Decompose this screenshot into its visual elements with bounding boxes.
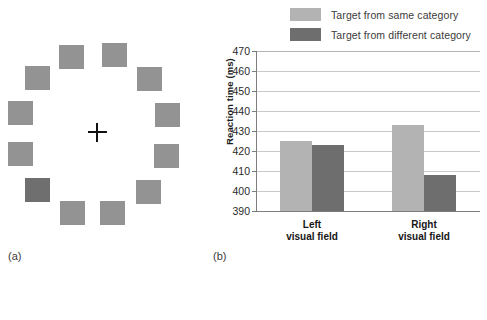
- stimulus-square: [137, 67, 162, 91]
- stimulus-square: [154, 144, 179, 168]
- legend-swatch-same-category: [290, 8, 321, 21]
- gridline: [257, 91, 480, 92]
- stimulus-square: [102, 43, 127, 67]
- y-tick-label: 460: [232, 65, 250, 77]
- y-tick-mark: [252, 191, 256, 192]
- y-tick-label: 410: [232, 165, 250, 177]
- y-axis-title: Reaction time (ms): [224, 47, 235, 157]
- bar-different-category: [312, 145, 344, 211]
- y-tick-mark: [252, 171, 256, 172]
- stimulus-square: [136, 180, 161, 204]
- stimulus-square: [60, 201, 85, 225]
- y-tick-label: 440: [232, 105, 250, 117]
- y-tick-mark: [252, 71, 256, 72]
- gridline: [257, 51, 480, 52]
- gridline: [257, 71, 480, 72]
- y-tick-mark: [252, 51, 256, 52]
- y-tick-mark: [252, 111, 256, 112]
- y-tick-label: 390: [232, 205, 250, 217]
- y-tick-label: 430: [232, 125, 250, 137]
- x-category-label-line2: visual field: [286, 231, 338, 243]
- x-category-label: Leftvisual field: [286, 219, 338, 243]
- fixation-cross-icon: [88, 123, 107, 142]
- stimulus-square: [155, 103, 180, 127]
- y-tick-label: 470: [232, 45, 250, 57]
- stimulus-square: [25, 66, 50, 90]
- stimulus-square: [8, 142, 33, 166]
- stimulus-square-target: [25, 178, 50, 202]
- x-category-label-line1: Right: [398, 219, 450, 231]
- x-category-label: Rightvisual field: [398, 219, 450, 243]
- stimulus-square: [59, 45, 84, 69]
- y-tick-mark: [252, 91, 256, 92]
- y-tick-mark: [252, 131, 256, 132]
- legend-label-same-category: Target from same category: [331, 9, 458, 21]
- stimulus-square: [8, 101, 33, 125]
- fixation-cross-vertical-bar: [96, 123, 98, 142]
- legend-item-different-category: Target from different category: [290, 26, 487, 43]
- gridline: [257, 111, 480, 112]
- y-tick-label: 420: [232, 145, 250, 157]
- y-tick-label: 450: [232, 85, 250, 97]
- y-tick-label: 400: [232, 185, 250, 197]
- stimulus-square: [100, 201, 125, 225]
- panel-b-caption: (b): [213, 250, 226, 262]
- legend-label-different-category: Target from different category: [331, 29, 471, 41]
- bar-same-category: [392, 125, 424, 211]
- bar-different-category: [424, 175, 456, 211]
- y-tick-mark: [252, 151, 256, 152]
- panel-a-stimulus-display: [0, 0, 210, 280]
- gridline: [257, 131, 480, 132]
- panel-a-caption: (a): [8, 250, 21, 262]
- bar-same-category: [280, 141, 312, 211]
- panel-b-bar-chart: Target from same category Target from di…: [206, 0, 487, 280]
- chart-legend: Target from same category Target from di…: [290, 6, 487, 46]
- legend-swatch-different-category: [290, 28, 321, 41]
- x-axis-line: [256, 211, 480, 212]
- x-category-label-line2: visual field: [398, 231, 450, 243]
- x-category-label-line1: Left: [286, 219, 338, 231]
- legend-item-same-category: Target from same category: [290, 6, 487, 23]
- y-tick-mark: [252, 211, 256, 212]
- plot-area: 390400410420430440450460470 Leftvisual f…: [256, 51, 480, 212]
